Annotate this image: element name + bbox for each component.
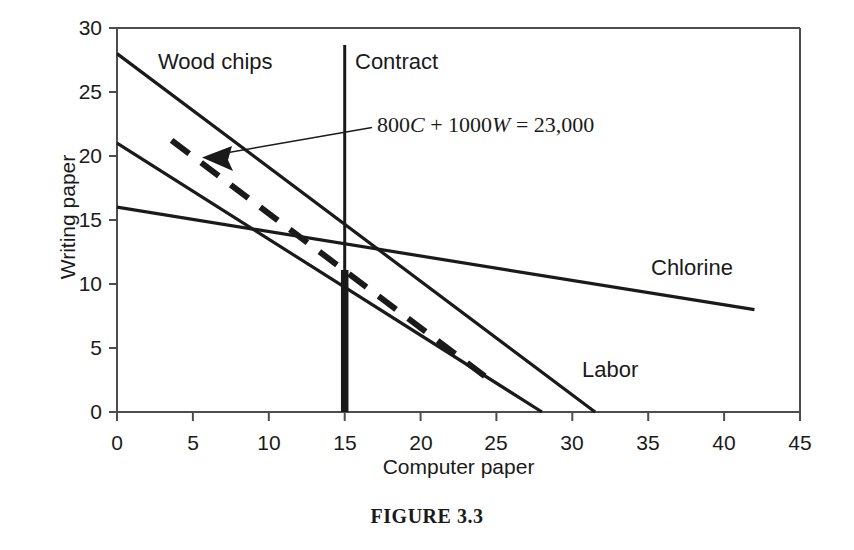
figure-container: 30 25 20 15 10 5 0 0 5 10 15 20 25 30 35…: [0, 0, 854, 550]
x-tick-label-45: 45: [780, 431, 820, 455]
series-label-wood-chips: Wood chips: [158, 49, 273, 75]
equation-right-hand-side: = 23,000: [510, 112, 594, 137]
series-label-labor: Labor: [582, 357, 638, 383]
x-tick-marks: [117, 412, 800, 421]
annotation-isoprofit-equation: 800C + 1000W = 23,000: [377, 112, 594, 138]
y-tick-marks: [109, 28, 117, 412]
x-tick-label-10: 10: [249, 431, 289, 455]
y-axis-title: Writing paper: [56, 127, 80, 307]
figure-caption: FIGURE 3.3: [0, 505, 854, 528]
y-tick-label-30: 30: [62, 16, 102, 40]
y-tick-label-0: 0: [62, 400, 102, 424]
series-label-contract: Contract: [355, 49, 438, 75]
equation-coefficient-c: 800: [377, 112, 410, 137]
x-tick-label-15: 15: [325, 431, 365, 455]
equation-plus-coefficient-w: + 1000: [425, 112, 492, 137]
x-tick-label-25: 25: [476, 431, 516, 455]
annotation-leader-line: [214, 128, 372, 156]
x-tick-label-30: 30: [552, 431, 592, 455]
y-tick-label-5: 5: [62, 336, 102, 360]
series-label-chlorine: Chlorine: [651, 255, 733, 281]
x-tick-label-35: 35: [628, 431, 668, 455]
equation-variable-c: C: [410, 112, 425, 137]
x-tick-label-5: 5: [173, 431, 213, 455]
axes-group: [117, 28, 800, 412]
x-tick-label-0: 0: [97, 431, 137, 455]
y-tick-label-25: 25: [62, 80, 102, 104]
x-tick-label-40: 40: [704, 431, 744, 455]
series-line-wood-chips: [117, 54, 595, 412]
equation-variable-w: W: [492, 112, 510, 137]
x-axis-title: Computer paper: [117, 455, 800, 479]
x-tick-label-20: 20: [401, 431, 441, 455]
